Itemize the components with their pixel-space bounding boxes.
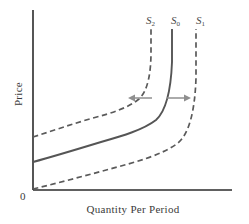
curve-label-s1-base: S: [196, 14, 202, 26]
supply-curve-s2: [33, 28, 151, 137]
curve-label-s1: S1: [196, 14, 205, 26]
curve-label-s2-base: S: [146, 14, 152, 26]
supply-shift-chart: S2 S0 S1 Price Quantity Per Period 0: [0, 0, 249, 224]
chart-canvas: [0, 0, 249, 224]
origin-label: 0: [20, 190, 26, 202]
curve-label-s1-sub: 1: [202, 20, 206, 28]
curve-label-s2-sub: 2: [152, 20, 156, 28]
curve-label-s0-sub: 0: [177, 20, 181, 28]
curve-label-s0: S0: [171, 14, 180, 26]
curve-label-s0-base: S: [171, 14, 177, 26]
y-axis-label: Price: [12, 64, 24, 124]
shift-arrow-left: [128, 95, 152, 102]
curve-label-s2: S2: [146, 14, 155, 26]
shift-arrow-right: [167, 95, 191, 102]
x-axis-label: Quantity Per Period: [33, 203, 233, 215]
